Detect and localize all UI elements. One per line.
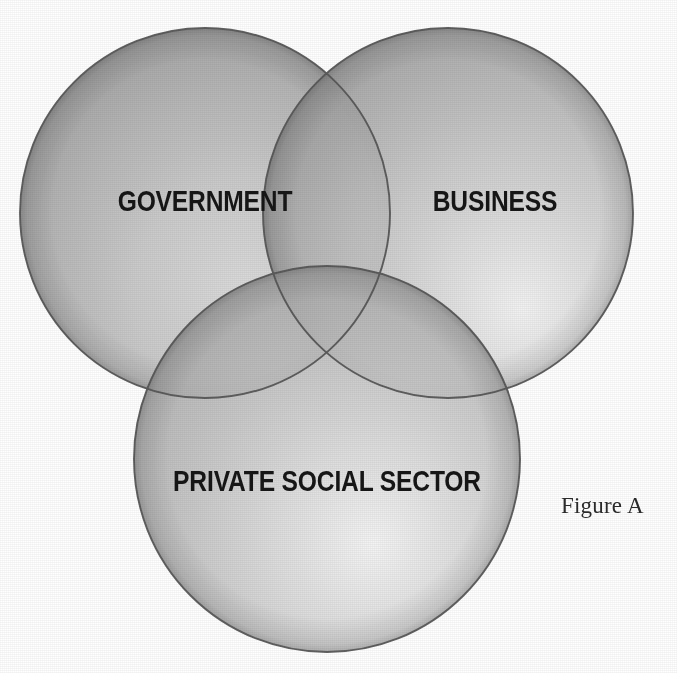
venn-label-business: BUSINESS xyxy=(327,186,663,216)
figure-a-venn-diagram: GOVERNMENT BUSINESS PRIVATE SOCIAL SECTO… xyxy=(0,0,677,673)
venn-circle-private-social-sector xyxy=(134,266,520,652)
venn-diagram-graphic xyxy=(0,0,677,673)
figure-caption: Figure A xyxy=(561,493,644,519)
venn-label-government: GOVERNMENT xyxy=(37,186,373,216)
venn-label-private-social-sector: PRIVATE SOCIAL SECTOR xyxy=(163,466,491,496)
